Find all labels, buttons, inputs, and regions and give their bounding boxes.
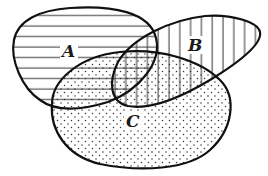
venn-diagram: A B C — [0, 0, 268, 176]
set-b-label: B — [187, 35, 202, 55]
set-c-label: C — [126, 111, 140, 131]
set-a-label: A — [60, 41, 75, 61]
